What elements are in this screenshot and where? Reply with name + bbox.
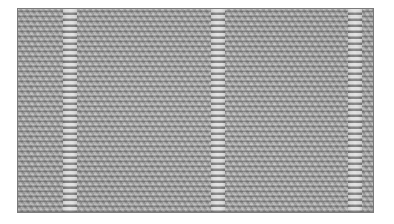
knitted-fabric-photo xyxy=(17,8,374,213)
rib-column-right xyxy=(348,9,362,212)
rib-column-middle xyxy=(211,9,225,212)
rib-column-left xyxy=(63,9,77,212)
